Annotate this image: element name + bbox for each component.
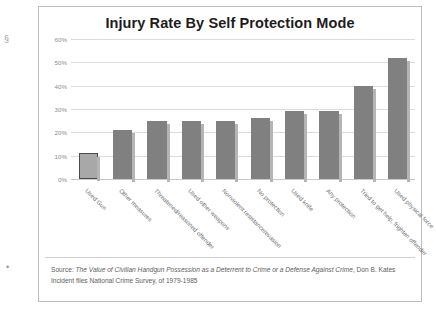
bar-series <box>71 39 415 179</box>
bar-shadow <box>201 124 204 182</box>
bar-shadow <box>167 124 170 182</box>
x-axis-labels: Used GunOther measuresThreatened/reasone… <box>71 187 415 263</box>
bar[interactable] <box>79 153 98 179</box>
y-axis: 60%50%40%30%20%10%0% <box>39 39 69 179</box>
plot-area: 60%50%40%30%20%10%0% <box>39 39 421 187</box>
bar[interactable] <box>319 111 338 179</box>
scan-mark-bottom: • <box>6 262 9 272</box>
bar-slot <box>174 39 208 179</box>
y-tick-label: 0% <box>58 176 67 183</box>
bar-shadow <box>373 89 376 182</box>
bar-slot <box>105 39 139 179</box>
source-note: Source: The Value of Civilian Handgun Po… <box>51 265 411 287</box>
bar-slot <box>209 39 243 179</box>
y-tick-label: 30% <box>55 106 67 113</box>
bar-slot <box>243 39 277 179</box>
x-tick-label: Used Gun <box>84 187 108 211</box>
source-divider <box>45 257 415 258</box>
bar[interactable] <box>113 130 132 179</box>
y-tick-label: 10% <box>55 152 67 159</box>
bar[interactable] <box>216 121 235 179</box>
bar[interactable] <box>147 121 166 179</box>
bar-shadow <box>407 61 410 182</box>
bar[interactable] <box>388 58 407 179</box>
bar[interactable] <box>285 111 304 179</box>
source-title: The Value of Civilian Handgun Possession… <box>76 266 353 273</box>
bar-slot <box>277 39 311 179</box>
plot-canvas <box>71 39 415 179</box>
bar[interactable] <box>251 118 270 179</box>
source-author: , Don B. Kates <box>353 266 396 273</box>
bar-shadow <box>235 124 238 182</box>
scan-mark-top: § <box>4 34 9 44</box>
chart-title: Injury Rate By Self Protection Mode <box>39 15 421 31</box>
bar-shadow <box>304 114 307 182</box>
gridline <box>71 179 415 180</box>
bar[interactable] <box>354 86 373 179</box>
bar-shadow <box>270 121 273 182</box>
bar-slot <box>312 39 346 179</box>
x-tick-label: Used knife <box>290 187 315 212</box>
bar[interactable] <box>182 121 201 179</box>
chart-frame: Injury Rate By Self Protection Mode 60%5… <box>38 6 422 302</box>
x-tick-label: Other measures <box>118 187 154 223</box>
source-line2: Incident files National Crime Survey, of… <box>51 277 197 284</box>
y-tick-label: 50% <box>55 59 67 66</box>
x-tick-label: Nonviolent resistance/evasion <box>222 187 284 249</box>
bar-shadow <box>339 114 342 182</box>
bar-slot <box>381 39 415 179</box>
x-tick-label: Any protection <box>325 187 358 220</box>
y-tick-label: 60% <box>55 36 67 43</box>
x-tick-label: No protection <box>256 187 287 218</box>
y-tick-label: 20% <box>55 129 67 136</box>
bar-shadow <box>97 157 100 181</box>
bar-slot <box>346 39 380 179</box>
scan-artifacts: § • <box>0 0 38 314</box>
bar-slot <box>140 39 174 179</box>
y-tick-label: 40% <box>55 82 67 89</box>
bar-shadow <box>132 133 135 182</box>
source-prefix: Source: <box>51 266 76 273</box>
x-tick-label: Threatened/reasoned offender <box>153 187 216 250</box>
bar-slot <box>71 39 105 179</box>
x-tick-label: Tried to get help, frighten offender <box>359 187 429 257</box>
